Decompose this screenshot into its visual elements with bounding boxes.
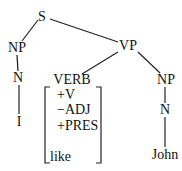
tree-edges [0, 0, 182, 171]
node-verb: VERB [53, 73, 90, 87]
edge-s-vp [50, 19, 118, 42]
node-john: John [152, 148, 178, 162]
node-n-subject: N [13, 71, 23, 85]
edge-np-n [17, 55, 18, 71]
node-np-subject: NP [8, 41, 26, 55]
edge-s-np [22, 20, 38, 41]
verb-word-like: like [50, 150, 71, 164]
edge-vp-np [138, 52, 160, 73]
node-i: I [17, 115, 22, 129]
node-n-object: N [160, 103, 170, 117]
edge-vp-verb [82, 52, 118, 74]
feature-plus-pres: +PRES [57, 119, 98, 133]
node-s: S [38, 10, 46, 24]
node-vp: VP [119, 39, 137, 53]
feature-minus-adj: −ADJ [57, 103, 91, 117]
node-np-object: NP [157, 73, 175, 87]
feature-plus-v: +V [57, 88, 75, 102]
